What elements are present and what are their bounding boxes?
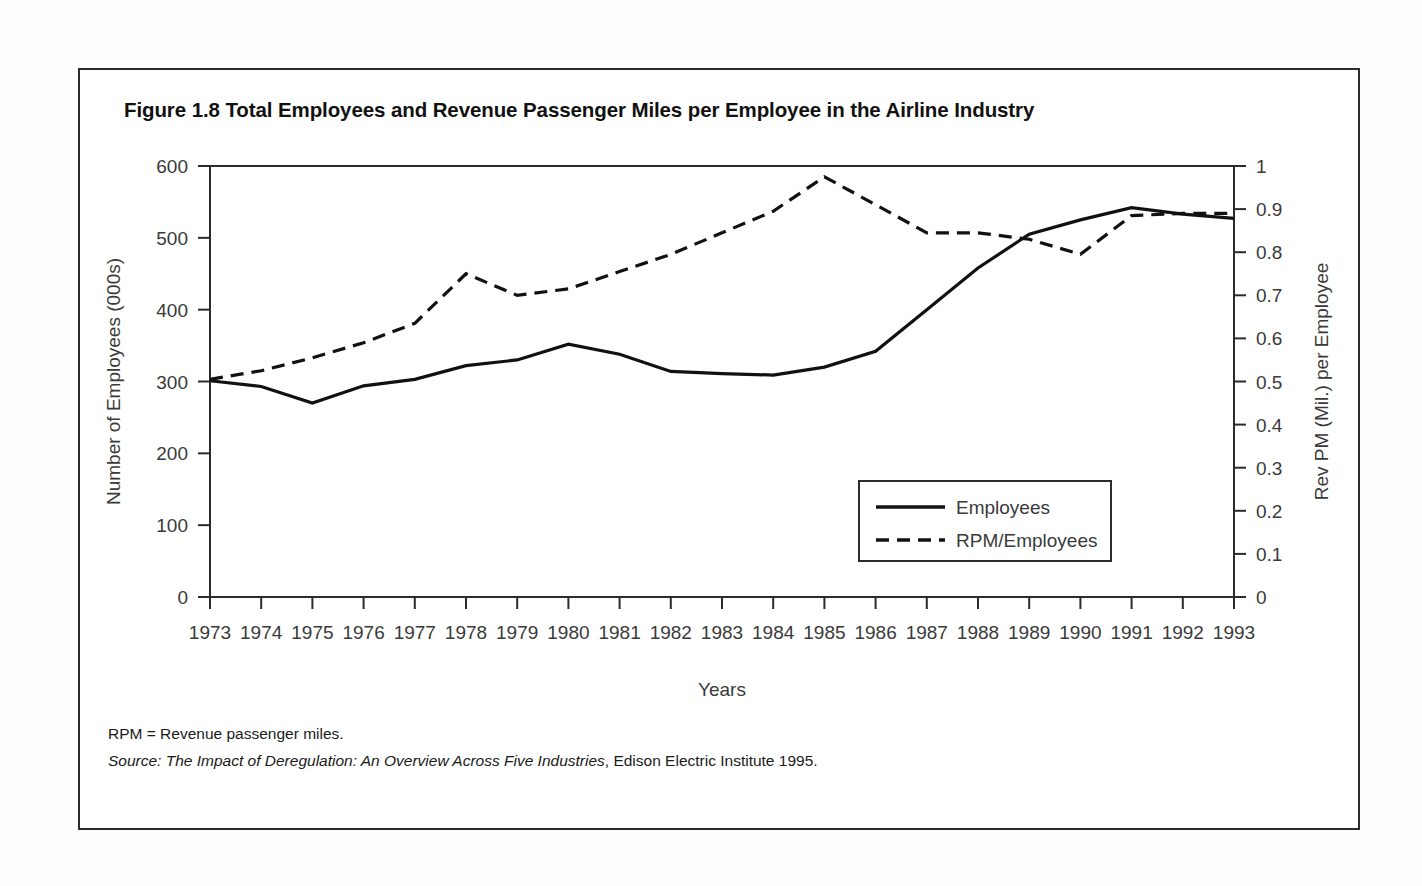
left-tick-label: 300 — [156, 372, 188, 393]
figure-page: Figure 1.8 Total Employees and Revenue P… — [0, 0, 1422, 886]
right-tick-label: 0.4 — [1256, 415, 1283, 436]
chart-canvas: 0100200300400500600 00.10.20.30.40.50.60… — [80, 70, 1362, 832]
right-tick-label: 0.9 — [1256, 199, 1282, 220]
x-tick-label: 1976 — [342, 622, 384, 643]
x-tick-label: 1978 — [445, 622, 487, 643]
x-tick-label: 1987 — [906, 622, 948, 643]
footnote-rpm: RPM = Revenue passenger miles. — [108, 725, 1308, 743]
left-tick-label: 100 — [156, 515, 188, 536]
x-tick-label: 1981 — [598, 622, 640, 643]
x-tick-label: 1983 — [701, 622, 743, 643]
left-axis-ticks — [198, 166, 210, 597]
left-tick-label: 0 — [177, 587, 188, 608]
x-tick-label: 1985 — [803, 622, 845, 643]
x-axis-title: Years — [698, 679, 746, 700]
figure-frame: Figure 1.8 Total Employees and Revenue P… — [78, 68, 1360, 830]
series-layer — [210, 177, 1234, 403]
y2-axis-title: Rev PM (Mil.) per Employee — [1311, 263, 1332, 501]
chart-legend: EmployeesRPM/Employees — [859, 481, 1111, 561]
right-axis-ticks — [1234, 166, 1246, 597]
x-tick-label: 1993 — [1213, 622, 1255, 643]
x-tick-label: 1984 — [752, 622, 795, 643]
x-tick-label: 1982 — [650, 622, 692, 643]
x-tick-label: 1988 — [957, 622, 999, 643]
right-tick-label: 0.3 — [1256, 458, 1282, 479]
footnotes: RPM = Revenue passenger miles. Source: T… — [108, 725, 1308, 779]
right-tick-label: 0.7 — [1256, 285, 1282, 306]
x-tick-label: 1980 — [547, 622, 589, 643]
left-tick-label: 500 — [156, 228, 188, 249]
x-tick-label: 1986 — [854, 622, 896, 643]
right-axis-labels: 00.10.20.30.40.50.60.70.80.91 — [1256, 156, 1283, 608]
left-tick-label: 200 — [156, 443, 188, 464]
series-line-rpm-employees — [210, 177, 1234, 380]
x-tick-label: 1992 — [1162, 622, 1204, 643]
legend-label-0: Employees — [956, 497, 1050, 518]
right-tick-label: 0.6 — [1256, 328, 1282, 349]
x-tick-label: 1973 — [189, 622, 231, 643]
x-tick-label: 1990 — [1059, 622, 1101, 643]
x-tick-label: 1974 — [240, 622, 283, 643]
source-publisher: , Edison Electric Institute 1995. — [605, 752, 818, 769]
x-axis-labels: 1973197419751976197719781979198019811982… — [189, 622, 1255, 643]
x-tick-label: 1975 — [291, 622, 333, 643]
legend-label-1: RPM/Employees — [956, 530, 1098, 551]
right-tick-label: 0 — [1256, 587, 1267, 608]
right-tick-label: 0.5 — [1256, 372, 1282, 393]
right-tick-label: 0.1 — [1256, 544, 1282, 565]
right-tick-label: 0.2 — [1256, 501, 1282, 522]
x-tick-label: 1979 — [496, 622, 538, 643]
source-title: Source: The Impact of Deregulation: An O… — [108, 752, 605, 769]
x-tick-label: 1991 — [1110, 622, 1152, 643]
x-axis-ticks — [210, 597, 1234, 609]
y-axis-title: Number of Employees (000s) — [103, 258, 124, 505]
line-chart: 0100200300400500600 00.10.20.30.40.50.60… — [80, 70, 1362, 832]
left-tick-label: 400 — [156, 300, 188, 321]
series-line-employees — [210, 208, 1234, 403]
x-tick-label: 1977 — [394, 622, 436, 643]
right-tick-label: 0.8 — [1256, 242, 1282, 263]
left-tick-label: 600 — [156, 156, 188, 177]
x-tick-label: 1989 — [1008, 622, 1050, 643]
footnote-source: Source: The Impact of Deregulation: An O… — [108, 752, 1308, 770]
left-axis-labels: 0100200300400500600 — [156, 156, 188, 608]
right-tick-label: 1 — [1256, 156, 1267, 177]
